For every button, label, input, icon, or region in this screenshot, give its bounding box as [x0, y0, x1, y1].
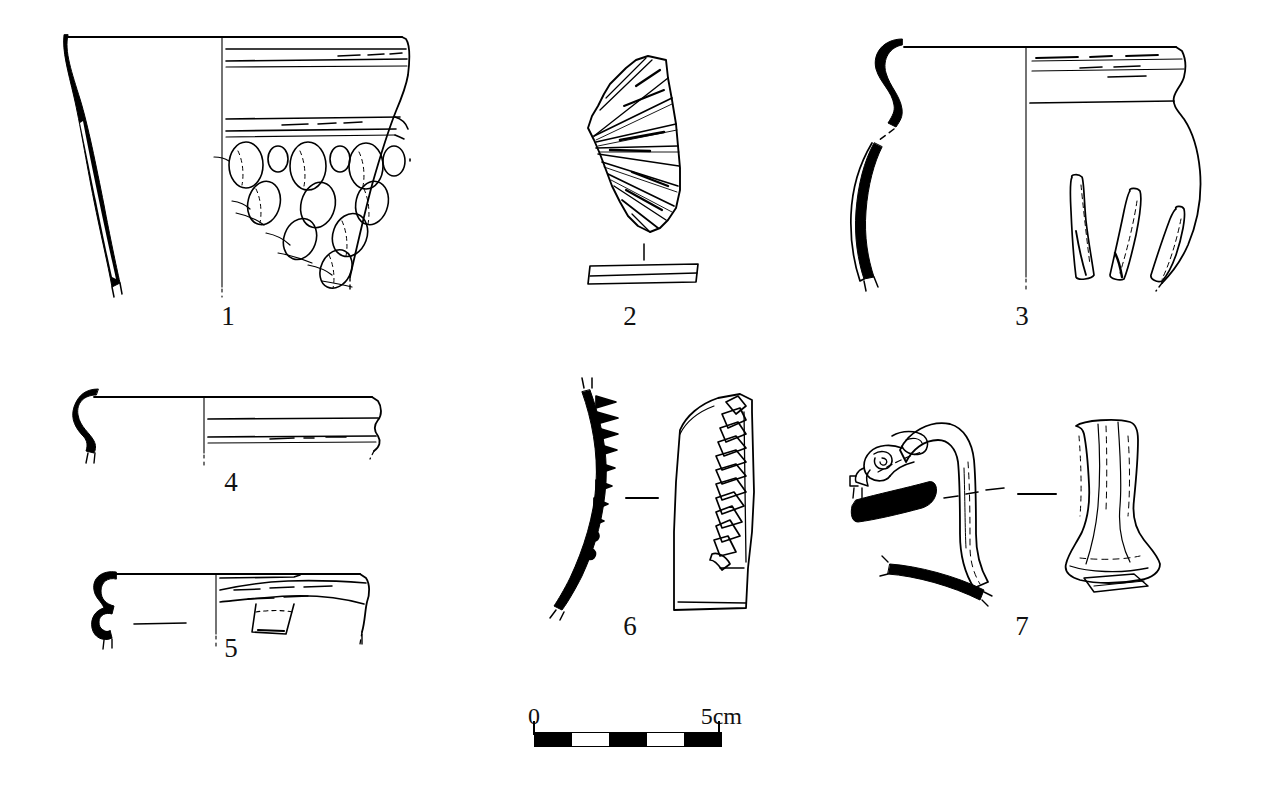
- scale-bar-segments: [534, 732, 722, 747]
- object-label-1: 1: [206, 303, 250, 330]
- figure-1-decorated-beaker-rim: [50, 25, 450, 310]
- scale-segment: [535, 733, 572, 746]
- scale-segment: [609, 733, 646, 746]
- scale-segment: [684, 733, 721, 746]
- object-label-7: 7: [1000, 613, 1044, 640]
- object-label-6: 6: [608, 613, 652, 640]
- scale-bar: 0 5cm: [528, 703, 738, 755]
- scale-segment: [647, 733, 684, 746]
- object-label-3: 3: [1000, 303, 1044, 330]
- figure-7-zoomorphic-handle: [848, 406, 1168, 616]
- figure-4-hooked-rim-sherd: [72, 383, 402, 478]
- object-label-2: 2: [608, 303, 652, 330]
- figure-2-fan-grooved-sherd: [580, 50, 720, 290]
- scale-segment: [572, 733, 609, 746]
- figure-3-globular-jar: [840, 25, 1220, 310]
- object-label-4: 4: [209, 469, 253, 496]
- scale-tick-labels: 0 5cm: [528, 703, 738, 727]
- scale-end-label: 5cm: [701, 703, 742, 730]
- object-label-5: 5: [209, 635, 253, 662]
- pottery-plate: 1: [0, 0, 1269, 792]
- figure-6-ridged-body-sherd: [540, 372, 790, 622]
